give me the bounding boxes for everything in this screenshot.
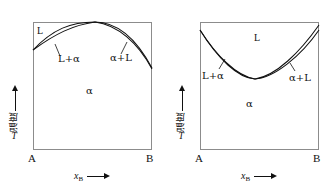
y-axis-label-right: T温度: [169, 42, 195, 142]
leader-line-alpha-plus-liquid-right: [290, 63, 295, 71]
phase-diagram-maximum-panel: L α L+α α+L T温度 xB A B: [0, 0, 166, 190]
x-axis-label-symbol-right: xB: [241, 170, 250, 183]
arrow-right-icon: [254, 172, 278, 180]
endpoint-label-a-left: A: [28, 152, 36, 164]
x-axis-label-left: xB: [33, 168, 152, 184]
region-label-alpha-plus-liquid-right: α+L: [289, 72, 311, 83]
x-axis-label-symbol-left: xB: [74, 170, 83, 183]
y-axis-label-cjk-right: 温度: [176, 112, 186, 132]
x-axis-symbol-sub-left: B: [78, 175, 83, 183]
leader-line-liquid-plus-alpha-right: [219, 59, 225, 69]
region-label-liquid-plus-alpha-left: L+α: [58, 53, 80, 64]
y-axis-label-text-left: T温度: [10, 112, 20, 142]
phase-diagram-minimum-panel: L α L+α α+L T温度 xB A B: [167, 0, 333, 190]
arrow-up-icon: [178, 85, 187, 111]
endpoint-label-b-right: B: [313, 152, 320, 164]
x-axis-label-right: xB: [200, 168, 319, 184]
region-label-alpha-right: α: [246, 98, 253, 109]
liquidus-curve-left: [33, 22, 152, 68]
y-axis-label-symbol-left: T: [11, 132, 16, 142]
region-label-liquid-right: L: [254, 32, 260, 43]
y-axis-label-symbol-right: T: [178, 132, 183, 142]
y-axis-label-cjk-left: 温度: [9, 112, 19, 132]
arrow-up-icon: [11, 85, 20, 111]
region-label-liquid-plus-alpha-right: L+α: [202, 70, 224, 81]
figure-canvas: L α L+α α+L T温度 xB A B: [0, 0, 333, 190]
region-label-alpha-plus-liquid-left: α+L: [110, 52, 132, 63]
solidus-curve-left: [33, 22, 152, 69]
endpoint-label-b-left: B: [146, 152, 153, 164]
region-label-alpha-left: α: [86, 85, 93, 96]
y-axis-label-text-right: T温度: [177, 112, 187, 142]
y-axis-label-left: T温度: [2, 42, 28, 142]
endpoint-label-a-right: A: [195, 152, 203, 164]
arrow-right-icon: [87, 172, 111, 180]
region-label-liquid-left: L: [37, 25, 43, 36]
x-axis-symbol-sub-right: B: [245, 175, 250, 183]
